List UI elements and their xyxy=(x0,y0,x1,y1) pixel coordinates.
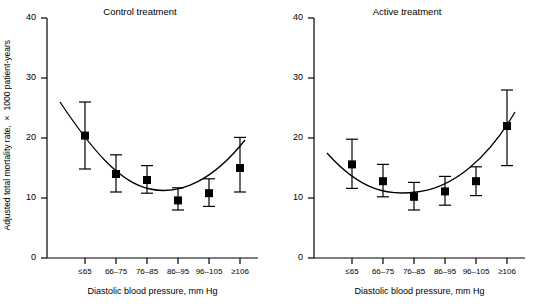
y-tick-10-left: 10 xyxy=(16,192,36,202)
panel-control-treatment: Control treatment xyxy=(0,0,272,305)
x-tick-2-right: 66–75 xyxy=(366,267,400,276)
x-tick-5-left: 96–105 xyxy=(192,267,226,276)
y-tick-20-right: 20 xyxy=(283,132,303,142)
x-tick-4-left: 86–95 xyxy=(161,267,195,276)
x-axis-label-right: Diastolic blood pressure, mm Hg xyxy=(312,286,527,296)
y-tick-30-right: 30 xyxy=(283,72,303,82)
x-axis-label-left: Diastolic blood pressure, mm Hg xyxy=(45,286,260,296)
figure-container: Adjusted total mortality rate, × 1000 pa… xyxy=(0,0,539,305)
y-tick-0-right: 0 xyxy=(283,252,303,262)
x-tick-3-right: 76–85 xyxy=(397,267,431,276)
y-tick-10-right: 10 xyxy=(283,192,303,202)
y-tick-20-left: 20 xyxy=(16,132,36,142)
x-tick-4-right: 86–95 xyxy=(428,267,462,276)
x-tick-3-left: 76–85 xyxy=(130,267,164,276)
x-tick-6-right: ≥106 xyxy=(490,267,524,276)
x-tick-1-right: ≤65 xyxy=(335,267,369,276)
x-tick-6-left: ≥106 xyxy=(223,267,257,276)
y-tick-40-right: 40 xyxy=(283,12,303,22)
plot-area-control xyxy=(0,0,272,305)
x-tick-1-left: ≤65 xyxy=(68,267,102,276)
x-tick-5-right: 96–105 xyxy=(459,267,493,276)
y-tick-30-left: 30 xyxy=(16,72,36,82)
plot-area-active xyxy=(272,0,539,305)
y-tick-40-left: 40 xyxy=(16,12,36,22)
y-tick-0-left: 0 xyxy=(16,252,36,262)
x-tick-2-left: 66–75 xyxy=(99,267,133,276)
panel-active-treatment: Active treatment xyxy=(272,0,539,305)
